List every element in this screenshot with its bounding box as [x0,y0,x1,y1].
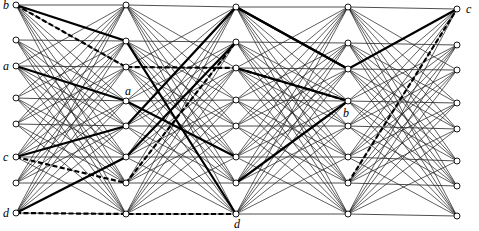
node [454,213,460,219]
node-label: d [3,206,10,220]
node [233,4,239,10]
node [454,183,460,189]
node [13,121,19,127]
node [13,95,19,101]
edge [348,45,457,101]
node [233,154,239,160]
node [345,180,351,186]
horizontal-edge [126,5,236,7]
node [233,97,239,103]
edge [348,45,457,214]
node-label: a [125,84,131,98]
node-label: a [3,59,9,73]
horizontal-edge [236,42,348,43]
node [13,2,19,8]
node [123,180,129,186]
node [345,66,351,72]
node [233,65,239,71]
layered-network-diagram: bacdadbc [0,0,479,231]
node [345,123,351,129]
horizontal-edge [236,100,348,101]
edge [348,161,457,214]
node [123,38,129,44]
node [123,123,129,129]
node [13,210,19,216]
node [454,126,460,132]
node-label: c [3,150,9,164]
edge [236,43,348,100]
node [345,4,351,10]
edge [126,42,236,101]
node [123,154,129,160]
node [123,64,129,70]
node [233,123,239,129]
node [345,211,351,217]
horizontal-edge [348,214,457,216]
horizontal-edge [348,69,457,70]
horizontal-edge [126,41,236,42]
node [454,42,460,48]
horizontal-edge [16,66,126,67]
node [454,158,460,164]
node-label: d [234,217,241,231]
node [345,154,351,160]
horizontal-edge [348,43,457,45]
edge [126,41,236,100]
node-label: c [466,2,472,16]
node [345,98,351,104]
node-label: b [3,0,9,12]
node [454,100,460,106]
node-label: b [343,106,349,120]
horizontal-edge [348,7,457,9]
node [345,40,351,46]
node [13,154,19,160]
node [123,211,129,217]
horizontal-edge [16,40,126,41]
edge [348,7,457,161]
edge [348,101,457,161]
node [233,39,239,45]
node [454,6,460,12]
node [454,67,460,73]
node [13,37,19,43]
edge [348,9,457,126]
node [233,180,239,186]
node [13,180,19,186]
node [123,2,129,8]
node [123,98,129,104]
edge [348,43,457,129]
node [13,63,19,69]
